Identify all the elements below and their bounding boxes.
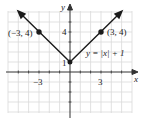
x-axis-label: x xyxy=(133,74,138,84)
tick-label-y-1: 1 xyxy=(62,58,67,68)
tick-label-y-4: 4 xyxy=(62,27,67,37)
point-vertex xyxy=(68,60,72,64)
tick-label-x-3: 3 xyxy=(98,77,103,87)
y-axis-arrow-icon xyxy=(68,4,73,10)
point-right xyxy=(99,30,103,34)
point-right-label: (3, 4) xyxy=(107,27,127,37)
point-left-label: (−3, 4) xyxy=(8,28,33,38)
y-axis-label: y xyxy=(60,2,65,12)
graph: y x −3 3 1 4 (−3, 4) (3, 4) y = |x| + 1 xyxy=(0,0,143,126)
point-left xyxy=(37,30,41,34)
equation-label: y = |x| + 1 xyxy=(85,48,125,58)
tick-label-x-neg3: −3 xyxy=(33,77,43,87)
